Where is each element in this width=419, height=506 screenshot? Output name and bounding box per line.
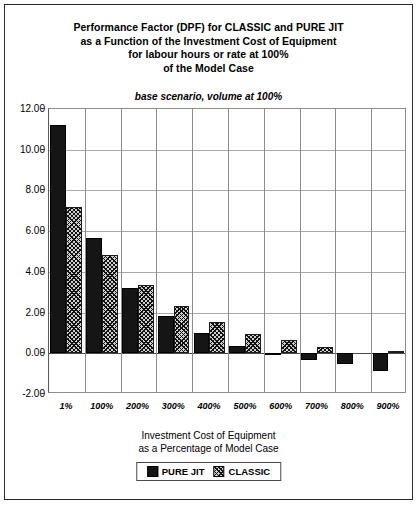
y-axis-labels: 12.0010.008.006.004.002.000.00-2.00 [5, 108, 45, 393]
bar-pure-jit [265, 353, 281, 355]
x-tick-label: 300% [155, 401, 191, 411]
plot-area [48, 108, 406, 393]
bar-classic [102, 255, 118, 354]
bar-group [49, 109, 85, 392]
x-tick-label: 900% [370, 401, 406, 411]
x-tick-label: 1% [48, 401, 84, 411]
bar-pure-jit [301, 353, 317, 360]
y-tick-mark [41, 149, 45, 150]
x-tick-label: 100% [84, 401, 120, 411]
bar-group [85, 109, 121, 392]
y-tick-mark [41, 271, 45, 272]
bar-group [121, 109, 157, 392]
y-tick-mark [41, 108, 45, 109]
bar-pure-jit [122, 288, 138, 353]
x-axis-title-line-2: as a Percentage of Model Case [5, 442, 412, 455]
legend-label: PURE JIT [162, 466, 205, 477]
title-line-4: of the Model Case [5, 62, 412, 76]
legend-swatch-icon [147, 466, 158, 477]
bar-classic [209, 322, 225, 354]
bar-group [228, 109, 264, 392]
bar-group [371, 109, 407, 392]
bar-pure-jit [229, 346, 245, 353]
bar-classic [245, 334, 261, 353]
bar-group [300, 109, 336, 392]
legend-label: CLASSIC [229, 466, 271, 477]
y-tick-mark [41, 393, 45, 394]
bar-pure-jit [158, 316, 174, 354]
y-tick-mark [41, 312, 45, 313]
plot-inner [48, 108, 406, 393]
bar-pure-jit [194, 333, 210, 353]
x-tick-label: 700% [299, 401, 335, 411]
bar-group [156, 109, 192, 392]
bar-classic [138, 285, 154, 353]
chart-legend: PURE JITCLASSIC [136, 462, 281, 481]
x-tick-label: 500% [227, 401, 263, 411]
x-tick-label: 200% [120, 401, 156, 411]
x-axis-title: Investment Cost of Equipment as a Percen… [5, 429, 412, 455]
chart-subtitle: base scenario, volume at 100% [5, 91, 412, 102]
x-tick-label: 600% [263, 401, 299, 411]
title-line-2: as a Function of the Investment Cost of … [5, 35, 412, 49]
x-tick-label: 800% [334, 401, 370, 411]
x-axis-labels: 1%100%200%300%400%500%600%700%800%900% [48, 401, 406, 417]
bar-classic [66, 207, 82, 354]
title-line-3: for labour hours or rate at 100% [5, 48, 412, 62]
y-tick-mark [41, 352, 45, 353]
bar-pure-jit [373, 353, 389, 370]
bar-pure-jit [337, 353, 353, 364]
legend-swatch-icon [214, 466, 225, 477]
chart-frame: Performance Factor (DPF) for CLASSIC and… [4, 4, 413, 500]
legend-item: PURE JIT [147, 466, 205, 477]
title-line-1: Performance Factor (DPF) for CLASSIC and… [5, 21, 412, 35]
bar-group [264, 109, 300, 392]
bar-group [335, 109, 371, 392]
y-tick-mark [41, 230, 45, 231]
x-axis-title-line-1: Investment Cost of Equipment [5, 429, 412, 442]
bar-classic [281, 340, 297, 353]
chart-title: Performance Factor (DPF) for CLASSIC and… [5, 21, 412, 75]
bar-pure-jit [86, 238, 102, 353]
bar-classic [174, 306, 190, 353]
bar-pure-jit [50, 125, 66, 353]
legend-item: CLASSIC [214, 466, 271, 477]
bar-classic [317, 347, 333, 353]
x-tick-label: 400% [191, 401, 227, 411]
bar-group [192, 109, 228, 392]
y-tick-mark [41, 189, 45, 190]
bar-classic [388, 351, 404, 353]
